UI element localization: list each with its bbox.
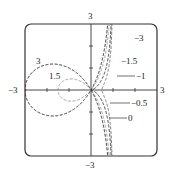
y-axis-top-label: 3 [88,11,93,21]
curve-label-0: 0 [128,113,133,123]
curve-label-neg1.5: −1.5 [121,56,138,66]
y-axis-bottom-label: −3 [85,160,95,170]
x-axis-left-label: −3 [8,85,18,95]
curve-label-neg1: −1 [136,71,146,81]
chart: 3 −3 −3 3 3 1.5 −3 −1.5 −1 −0.5 0 [0,0,174,179]
curve-label-1.5: 1.5 [49,71,61,81]
curve-label-3: 3 [36,56,41,66]
curve-label-neg3: −3 [134,33,144,43]
curve-label-neg0.5: −0.5 [131,98,148,108]
x-axis-right-label: 3 [160,85,165,95]
